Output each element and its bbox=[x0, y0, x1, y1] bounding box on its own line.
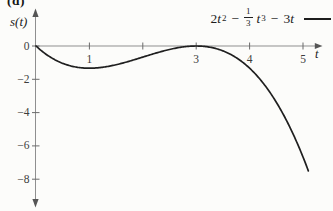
x-tick-label: 3 bbox=[193, 53, 199, 65]
legend-formula: 2t2 − 1 3 t3 − 3t bbox=[210, 8, 331, 30]
y-tick-label: −2 bbox=[17, 73, 29, 85]
legend-line-swatch bbox=[304, 18, 331, 20]
x-tick-label: 1 bbox=[87, 53, 93, 65]
function-curve bbox=[36, 46, 308, 171]
plot-svg: 13450−2−4−6−8 bbox=[0, 0, 333, 211]
x-tick-label: 4 bbox=[247, 53, 253, 65]
axis-ticks: 13450−2−4−6−8 bbox=[17, 40, 306, 185]
formula-var3: t bbox=[290, 11, 294, 27]
figure-label: (d) bbox=[7, 0, 25, 9]
y-axis-title: s(t) bbox=[10, 14, 27, 30]
formula-coef3: 3 bbox=[283, 11, 290, 27]
y-tick-label: −4 bbox=[17, 106, 29, 118]
formula-fraction-denominator: 3 bbox=[246, 18, 251, 28]
y-tick-label: 0 bbox=[24, 40, 30, 52]
formula-var1: t bbox=[217, 11, 221, 27]
formula-minus1: − bbox=[231, 11, 239, 27]
formula-var2: t bbox=[257, 11, 261, 27]
y-axis-down-arrow-icon bbox=[32, 199, 38, 208]
x-tick-label: 5 bbox=[300, 53, 306, 65]
y-axis-up-arrow-icon bbox=[32, 9, 38, 18]
formula-fraction: 1 3 bbox=[244, 7, 253, 29]
y-tick-label: −6 bbox=[17, 139, 29, 151]
formula-fraction-numerator: 1 bbox=[244, 7, 253, 18]
formula-coef1: 2 bbox=[210, 11, 217, 27]
formula-minus2: − bbox=[271, 11, 279, 27]
x-axis-title: t bbox=[315, 47, 318, 62]
y-tick-label: −8 bbox=[17, 173, 29, 185]
figure-panel: 13450−2−4−6−8 (d) s(t) t 2t2 − 1 3 t3 − … bbox=[0, 0, 333, 211]
formula-exp1: 2 bbox=[222, 13, 227, 23]
formula-exp2: 3 bbox=[261, 13, 266, 23]
